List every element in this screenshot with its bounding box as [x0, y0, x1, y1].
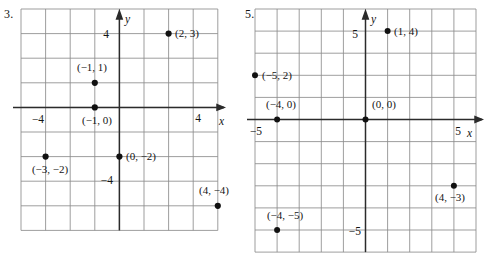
coordinate-grid-5: −5 5 5 −5 x y (1, 4) (−5, 2) (−4, 0) (0, — [255, 9, 485, 267]
point-marker — [116, 154, 122, 160]
point-label: (−1, 1) — [77, 61, 107, 74]
point-label: (−5, 2) — [262, 69, 292, 82]
point-marker — [274, 227, 280, 233]
problem-number-5: 5. — [245, 7, 254, 22]
axes-3 — [13, 11, 224, 230]
point-marker — [451, 183, 457, 189]
y-axis-arrow-3 — [117, 11, 123, 19]
problem-3: 3. — [0, 0, 244, 271]
y-tick-label-4-g3: 4 — [103, 28, 109, 40]
point-marker — [215, 203, 221, 209]
x-tick-label-neg4-g3: −4 — [32, 113, 44, 125]
y-tick-label-5-g5: 5 — [352, 28, 358, 40]
graph-5-svg: −5 5 5 −5 x y (1, 4) (−5, 2) (−4, 0) (0, — [255, 9, 485, 267]
point-marker — [252, 72, 258, 78]
coordinate-grid-3: −4 4 4 −4 x y (2, 3) (−1, 1) (−1, 0) (−3 — [21, 9, 247, 257]
point-label: (2, 3) — [175, 27, 199, 40]
x-tick-label-neg5-g5: −5 — [250, 125, 262, 137]
point-marker — [92, 80, 98, 86]
point-marker — [92, 104, 98, 110]
point-label: (0, 0) — [372, 98, 396, 111]
y-axis-name-g3: y — [124, 13, 131, 26]
y-axis-arrow-5 — [363, 11, 369, 19]
point-marker — [43, 154, 49, 160]
y-tick-label-neg4-g3: −4 — [101, 174, 113, 186]
x-tick-label-5-g5: 5 — [455, 125, 461, 137]
point-label: (−1, 0) — [82, 114, 112, 127]
point-label: (1, 4) — [394, 25, 418, 38]
plotted-points-5: (1, 4) (−5, 2) (−4, 0) (0, 0) (4, −3) (−… — [252, 25, 465, 233]
graph-3-svg: −4 4 4 −4 x y (2, 3) (−1, 1) (−1, 0) (−3 — [21, 9, 247, 257]
point-marker — [363, 117, 369, 123]
point-marker — [166, 31, 172, 37]
y-axis-name-g5: y — [370, 13, 377, 26]
point-label: (4, −4) — [199, 184, 229, 197]
x-axis-arrow-3 — [217, 105, 224, 111]
point-marker — [274, 117, 280, 123]
problem-5: 5. — [243, 0, 487, 271]
point-label: (−4, 0) — [266, 98, 296, 111]
point-label: (0, −2) — [126, 150, 156, 163]
point-label: (−3, −2) — [32, 163, 69, 176]
x-axis-name-g5: x — [466, 127, 473, 139]
x-axis-name-g3: x — [218, 115, 225, 127]
point-label: (4, −3) — [435, 191, 465, 204]
y-tick-label-neg5-g5: −5 — [349, 225, 361, 237]
x-axis-arrow-5 — [475, 117, 482, 123]
point-label: (−4, −5) — [267, 209, 304, 222]
problem-number-3: 3. — [4, 7, 13, 22]
x-tick-label-4-g3: 4 — [195, 112, 201, 124]
point-marker — [385, 28, 391, 34]
